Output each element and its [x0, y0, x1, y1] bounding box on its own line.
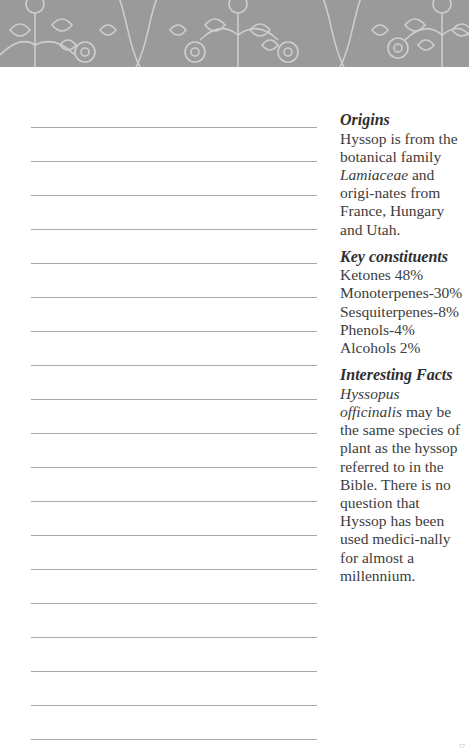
- list-item: Alcohols 2%: [340, 339, 465, 357]
- origins-heading: Origins: [340, 111, 465, 130]
- list-item: Phenols-4%: [340, 321, 465, 339]
- origins-text: Hyssop is from the botanical family Lami…: [340, 130, 465, 239]
- note-line: [31, 433, 317, 434]
- note-line: [31, 127, 317, 128]
- facts-section: Interesting Facts Hyssopus officinalis m…: [340, 366, 465, 585]
- note-line: [31, 739, 317, 740]
- constituents-list: Ketones 48% Monoterpenes-30% Sesquiterpe…: [340, 266, 465, 357]
- note-line: [31, 195, 317, 196]
- note-line: [31, 263, 317, 264]
- note-line: [31, 535, 317, 536]
- note-line: [31, 501, 317, 502]
- note-line: [31, 467, 317, 468]
- note-line: [31, 297, 317, 298]
- list-item: Sesquiterpenes-8%: [340, 303, 465, 321]
- note-line: [31, 637, 317, 638]
- page-number: 57: [459, 743, 465, 749]
- note-line: [31, 331, 317, 332]
- constituents-section: Key constituents Ketones 48% Monoterpene…: [340, 248, 465, 358]
- constituents-heading: Key constituents: [340, 248, 465, 267]
- note-line: [31, 603, 317, 604]
- decorative-header-band: [0, 0, 469, 67]
- list-item: Ketones 48%: [340, 266, 465, 284]
- info-sidebar: Origins Hyssop is from the botanical fam…: [340, 111, 465, 594]
- facts-heading: Interesting Facts: [340, 366, 465, 385]
- note-line: [31, 705, 317, 706]
- facts-text: Hyssopus officinalis may be the same spe…: [340, 385, 465, 585]
- origins-section: Origins Hyssop is from the botanical fam…: [340, 111, 465, 239]
- list-item: Monoterpenes-30%: [340, 284, 465, 302]
- floral-pattern-icon: [0, 0, 469, 67]
- note-line: [31, 569, 317, 570]
- note-line: [31, 671, 317, 672]
- note-line: [31, 229, 317, 230]
- note-line: [31, 365, 317, 366]
- note-line: [31, 161, 317, 162]
- note-line: [31, 399, 317, 400]
